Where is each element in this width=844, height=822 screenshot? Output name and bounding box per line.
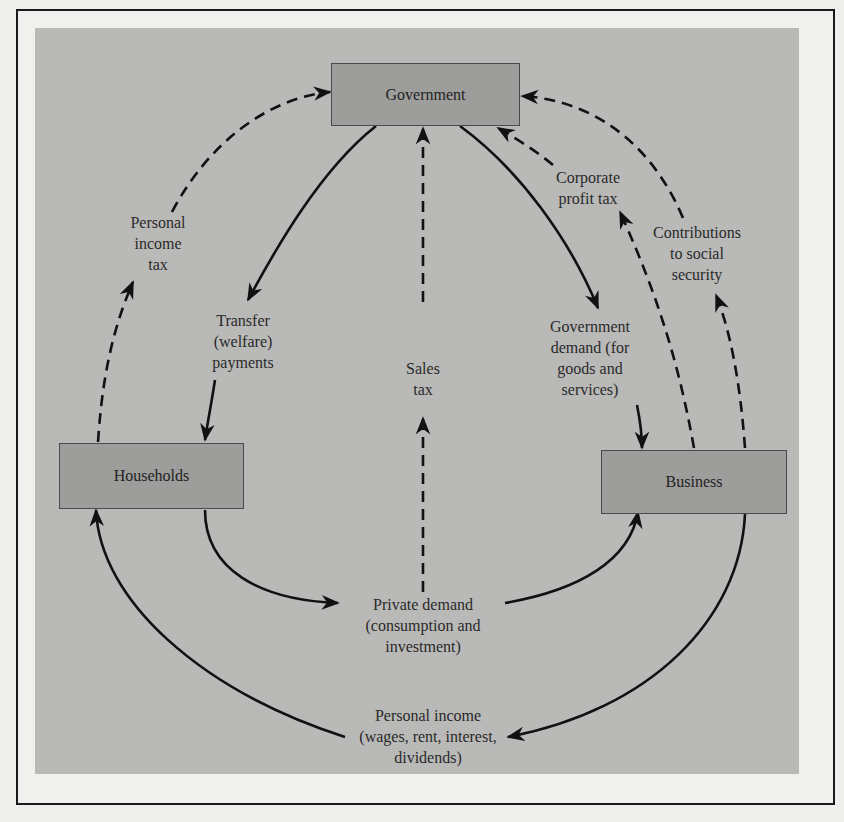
transfer-payments-label: Transfer (welfare) payments — [188, 310, 298, 373]
private-demand-label: Private demand (consumption and investme… — [333, 594, 513, 657]
government-demand-arrow-lower — [637, 405, 642, 448]
personal-income-label: Personal income (wages, rent, interest, … — [328, 705, 528, 768]
personal-income-tax-arrow-lower — [98, 282, 133, 442]
personal-income-tax-arrow-upper — [172, 92, 330, 212]
personal-income-arrow-left — [96, 510, 345, 737]
transfer-payments-arrow-upper — [248, 126, 376, 300]
households-label: Households — [114, 467, 190, 485]
transfer-payments-arrow-lower — [205, 380, 215, 440]
corporate-profit-tax-label: Corporate profit tax — [533, 167, 643, 209]
sales-tax-label: Sales tax — [393, 358, 453, 400]
corporate-profit-tax-arrow-upper — [498, 128, 553, 165]
business-label: Business — [666, 473, 723, 491]
government-box: Government — [331, 63, 520, 126]
government-label: Government — [386, 86, 466, 104]
private-demand-arrow-right — [505, 512, 638, 603]
business-box: Business — [601, 450, 787, 514]
households-box: Households — [59, 443, 244, 509]
government-demand-arrow-upper — [460, 126, 598, 308]
social-security-label: Contributions to social security — [632, 222, 762, 285]
personal-income-tax-label: Personal income tax — [108, 212, 208, 275]
social-security-arrow-lower — [716, 295, 745, 448]
government-demand-label: Government demand (for goods and service… — [530, 316, 650, 400]
personal-income-arrow-right — [508, 514, 745, 737]
private-demand-arrow-left — [205, 510, 338, 603]
